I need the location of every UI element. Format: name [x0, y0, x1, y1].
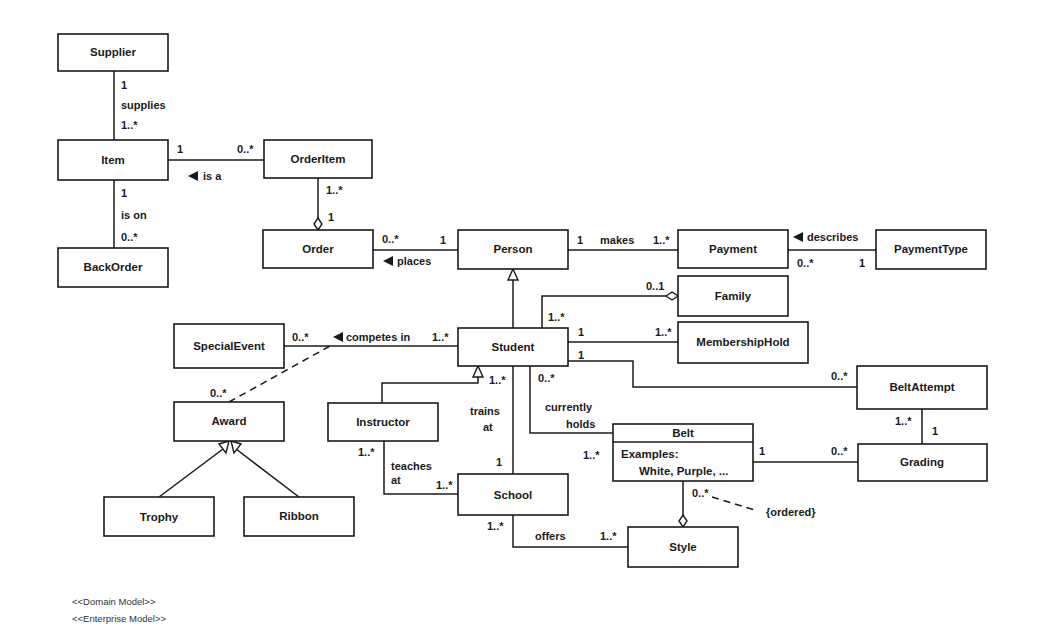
class-family[interactable]: Family [678, 276, 788, 316]
class-name: BeltAttempt [889, 381, 954, 393]
aggregation-diamond [314, 218, 322, 230]
class-name: Style [669, 541, 697, 553]
multiplicity: 0..* [237, 143, 254, 155]
constraint-label: {ordered} [766, 506, 816, 518]
class-style[interactable]: Style [628, 527, 738, 567]
class-name: Supplier [90, 46, 137, 58]
association-name: currently [545, 401, 593, 413]
multiplicity: 1 [121, 187, 127, 199]
generalization-ribbon-award [236, 449, 299, 497]
multiplicity: 1 [577, 234, 583, 246]
class-instructor[interactable]: Instructor [328, 403, 438, 441]
class-name: Item [101, 154, 125, 166]
class-backorder[interactable]: BackOrder [58, 248, 168, 287]
class-specialevent[interactable]: SpecialEvent [174, 324, 284, 368]
class-name: Order [302, 243, 334, 255]
class-name: OrderItem [291, 153, 346, 165]
association-name: holds [566, 418, 595, 430]
class-trophy[interactable]: Trophy [104, 497, 214, 536]
association-name: trains [470, 405, 500, 417]
multiplicity: 1 [496, 456, 502, 468]
association-name: supplies [121, 99, 166, 111]
multiplicity: 1 [440, 234, 446, 246]
association-name: places [397, 255, 431, 267]
aggregation-diamond [666, 292, 678, 300]
multiplicity: 1 [578, 349, 584, 361]
generalization-arrow [508, 269, 518, 280]
association-name: at [483, 421, 493, 433]
multiplicity: 1..* [489, 374, 506, 386]
direction-triangle-icon [333, 332, 343, 342]
class-name: School [494, 489, 532, 501]
class-name: Belt [672, 427, 694, 439]
class-grading[interactable]: Grading [858, 444, 987, 481]
multiplicity: 1 [121, 79, 127, 91]
direction-triangle-icon [793, 232, 803, 242]
multiplicity: 1..* [653, 234, 670, 246]
uml-class-diagram: Supplier Item BackOrder OrderItem Order … [0, 0, 1040, 638]
stereotype-enterprise-model: <<Enterprise Model>> [72, 613, 166, 624]
association-name: makes [600, 234, 634, 246]
class-name: Grading [900, 456, 944, 468]
class-membershiphold[interactable]: MembershipHold [678, 322, 808, 363]
multiplicity: 1..* [436, 479, 453, 491]
class-school[interactable]: School [458, 474, 568, 515]
multiplicity: 1..* [895, 415, 912, 427]
class-name: Person [494, 243, 533, 255]
class-payment[interactable]: Payment [678, 230, 788, 268]
multiplicity: 0..* [210, 387, 227, 399]
class-name: Ribbon [279, 510, 319, 522]
aggregation-diamond [679, 515, 687, 527]
class-student[interactable]: Student [458, 328, 568, 366]
association-name: teaches [391, 460, 432, 472]
class-paymenttype[interactable]: PaymentType [876, 230, 986, 269]
assoc-beltattempt [568, 361, 857, 387]
multiplicity: 1 [177, 143, 183, 155]
stereotype-domain-model: <<Domain Model>> [72, 596, 155, 607]
class-name: SpecialEvent [193, 340, 265, 352]
multiplicity: 0..1 [646, 280, 664, 292]
class-beltattempt[interactable]: BeltAttempt [857, 366, 987, 409]
multiplicity: 0..* [538, 372, 555, 384]
multiplicity: 1..* [548, 311, 565, 323]
class-order[interactable]: Order [263, 230, 373, 268]
generalization-trophy-award [159, 449, 223, 497]
association-name: is a [203, 170, 222, 182]
class-name: MembershipHold [696, 336, 789, 348]
class-name: Trophy [140, 511, 179, 523]
multiplicity: 1..* [326, 184, 343, 196]
class-item[interactable]: Item [58, 140, 168, 180]
class-person[interactable]: Person [458, 230, 568, 269]
class-supplier[interactable]: Supplier [58, 34, 168, 71]
multiplicity: 1 [859, 257, 865, 269]
class-name: Family [715, 290, 752, 302]
class-name: Award [212, 415, 247, 427]
class-name: PaymentType [894, 243, 968, 255]
multiplicity: 0..* [292, 331, 309, 343]
class-name: Student [492, 341, 535, 353]
association-name: describes [807, 231, 858, 243]
class-name: Payment [709, 243, 757, 255]
multiplicity: 1..* [655, 326, 672, 338]
class-award[interactable]: Award [174, 402, 284, 441]
multiplicity: 1..* [487, 520, 504, 532]
multiplicity: 0..* [831, 445, 848, 457]
multiplicity: 1..* [432, 331, 449, 343]
multiplicity: 0..* [382, 233, 399, 245]
class-ribbon[interactable]: Ribbon [244, 497, 354, 536]
generalization-arrow [473, 366, 483, 377]
association-name: is on [121, 209, 147, 221]
direction-triangle-icon [188, 171, 198, 181]
multiplicity: 1..* [358, 446, 375, 458]
association-name: competes in [346, 331, 410, 343]
class-orderitem[interactable]: OrderItem [264, 140, 372, 178]
multiplicity: 1..* [600, 530, 617, 542]
multiplicity: 1 [932, 425, 938, 437]
association-name: at [391, 474, 401, 486]
class-belt[interactable]: Belt Examples: White, Purple, ... [613, 424, 753, 481]
generalization-instructor-student [382, 376, 478, 403]
class-name: Instructor [356, 416, 410, 428]
class-attribute: White, Purple, ... [639, 465, 728, 477]
multiplicity: 0..* [831, 370, 848, 382]
multiplicity: 1..* [583, 449, 600, 461]
